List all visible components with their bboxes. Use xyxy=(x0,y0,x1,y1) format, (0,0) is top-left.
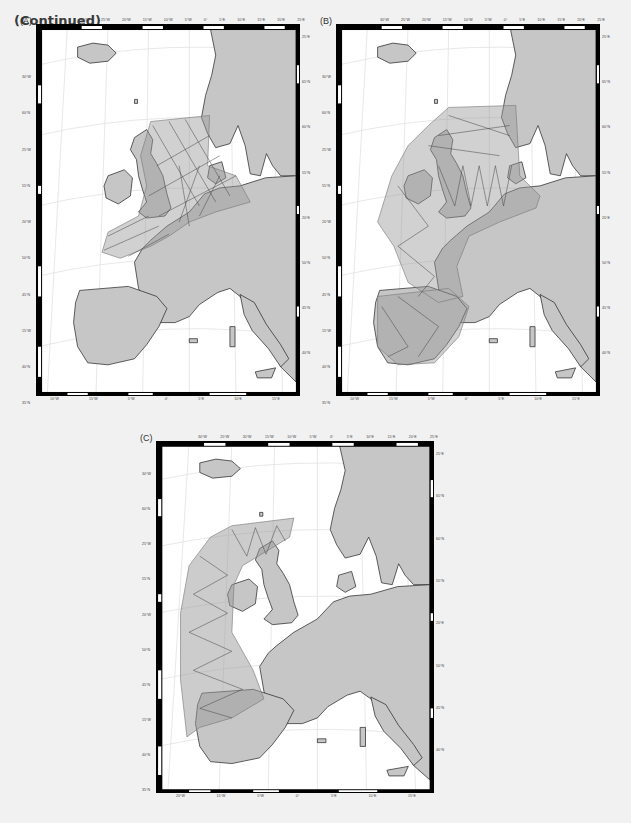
top-ticks: 30°W25°W20°W15°W10°W5°W0°5°E10°E15°E20°E… xyxy=(380,19,605,23)
bottom-ticks: 10°W15°W5°W0°5°E10°E15°E xyxy=(50,398,280,402)
panel-label: (B) xyxy=(320,16,332,26)
panel-label: (C) xyxy=(140,433,153,443)
right-ticks: 25°E65°N60°N55°N20°E50°N45°N40°N xyxy=(302,36,310,356)
map-b xyxy=(336,24,600,396)
map-a-graphic xyxy=(37,25,300,396)
panel-c: (C) 30°W25°W20°W15°W10°W5°W0°5°E10°E15° xyxy=(140,433,460,818)
left-ticks: 30°W60°N25°W55°N20°W50°N45°N15°W40°N35°N xyxy=(142,473,151,793)
panel-b: (B) 30°W25°W20°W15°W1 xyxy=(320,16,610,436)
map-c-graphic xyxy=(157,442,434,793)
bottom-ticks: 10°W15°W5°W0°5°E10°E15°E xyxy=(350,398,580,402)
map-b-graphic xyxy=(337,25,600,396)
top-ticks: 30°W25°W20°W15°W10°W5°W0°5°E10°E15°E20°E… xyxy=(80,19,305,23)
bottom-ticks: 20°W15°W5°W0°5°E10°E15°E xyxy=(176,795,416,799)
right-ticks: 25°E65°N60°N55°N20°E50°N45°N40°N xyxy=(436,453,444,753)
right-ticks: 25°E65°N60°N55°N20°E50°N45°N40°N xyxy=(602,36,610,356)
top-ticks: 30°W25°W20°W15°W10°W5°W0°5°E10°E15°E20°E… xyxy=(198,436,438,440)
left-ticks: 30°W60°N25°W55°N20°W50°N45°N15°W40°N35°N xyxy=(22,76,31,406)
panel-a: (A) 30°W25°W20°W15°W10°W5°W0°5°E10°E15°E… xyxy=(20,16,310,436)
panel-label: (A) xyxy=(20,16,32,26)
left-ticks: 30°W60°N25°W55°N20°W50°N45°N15°W40°N35°N xyxy=(322,76,331,406)
map-a xyxy=(36,24,300,396)
map-c xyxy=(156,441,434,793)
